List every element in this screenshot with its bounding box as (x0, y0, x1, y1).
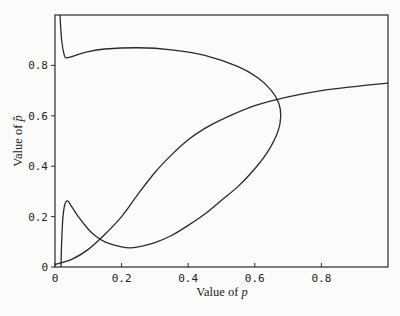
x-axis-ticks: 00.20.40.60.8 (52, 263, 332, 285)
x-tick-label: 0.6 (245, 272, 265, 285)
series-lines (55, 15, 388, 267)
x-tick-label: 0.4 (178, 272, 198, 285)
y-tick-label: 0.2 (28, 211, 48, 224)
rising-curve-line (55, 83, 388, 264)
y-tick-label: 0.8 (28, 59, 48, 72)
chart: 00.20.40.60.8 00.20.40.60.8 Value of p V… (0, 0, 400, 316)
x-tick-label: 0.8 (311, 272, 331, 285)
plot-border (55, 15, 388, 267)
x-tick-label: 0.2 (112, 272, 132, 285)
y-tick-label: 0.4 (28, 160, 48, 173)
folded-curve-line (60, 15, 281, 267)
x-tick-label: 0 (52, 272, 59, 285)
y-tick-label: 0 (41, 261, 48, 274)
x-axis-label: Value of p (196, 285, 247, 299)
y-axis-label: Value of p̂ (11, 115, 25, 166)
y-axis-ticks: 00.20.40.60.8 (28, 59, 55, 274)
y-tick-label: 0.6 (28, 110, 48, 123)
plot-frame (55, 15, 388, 267)
